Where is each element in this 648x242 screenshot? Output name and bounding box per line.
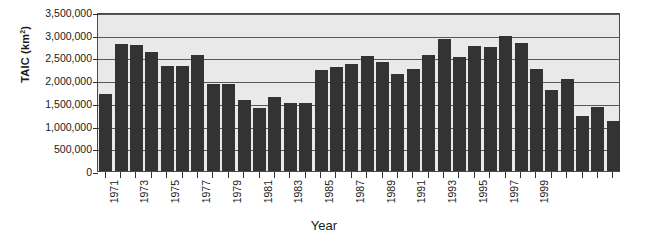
y-axis-tick-label: 2,500,000 (22, 53, 92, 63)
y-axis-tick-labels: 3,500,0003,000,0002,500,0002,000,0001,50… (22, 0, 92, 242)
bar (130, 45, 143, 171)
bar (253, 108, 266, 171)
bar (499, 36, 512, 171)
bar (422, 55, 435, 171)
bar (99, 94, 112, 171)
bar (438, 39, 451, 171)
bar (591, 107, 604, 172)
y-axis-tick-label: 2,000,000 (22, 76, 92, 86)
x-axis-tick-label: 1981 (263, 180, 274, 220)
bar (530, 69, 543, 171)
bar (468, 46, 481, 171)
x-axis-tick-label: 1987 (355, 180, 366, 220)
y-axis-tick-label: 500,000 (22, 144, 92, 154)
bar (161, 66, 174, 171)
x-axis-tick-label: 1977 (201, 180, 212, 220)
x-axis-tick-label: 1989 (386, 180, 397, 220)
x-axis-tick-label: 1985 (324, 180, 335, 220)
bar (407, 69, 420, 171)
bar (315, 70, 328, 171)
bar (222, 84, 235, 171)
x-axis-tick-label: 1993 (447, 180, 458, 220)
bar-series (98, 14, 619, 171)
bar-chart: TAIC (km2) 3,500,0003,000,0002,500,0002,… (0, 0, 648, 242)
bar (391, 74, 404, 171)
bar (515, 43, 528, 171)
bar (238, 100, 251, 171)
bar (361, 56, 374, 171)
bar (268, 97, 281, 171)
bar (191, 55, 204, 171)
plot-area (97, 13, 620, 172)
y-axis-tick-label: 3,500,000 (22, 8, 92, 18)
bar (576, 116, 589, 171)
x-axis-tick-label: 1995 (478, 180, 489, 220)
bar (453, 57, 466, 171)
bar (607, 121, 620, 171)
bar (330, 67, 343, 171)
x-axis-tick-label: 1973 (139, 180, 150, 220)
bar (376, 62, 389, 171)
x-axis-tick-label: 1971 (109, 180, 120, 220)
bar (207, 84, 220, 171)
x-axis-tick-label: 1997 (509, 180, 520, 220)
x-axis-title: Year (0, 218, 648, 233)
y-axis-tick-label: 1,000,000 (22, 122, 92, 132)
bar (176, 66, 189, 171)
x-axis-tick-label: 1983 (293, 180, 304, 220)
bar (115, 44, 128, 171)
bar (484, 47, 497, 171)
y-axis-tick-label: 1,500,000 (22, 99, 92, 109)
bar (145, 52, 158, 171)
x-axis-tick-label: 1999 (539, 180, 550, 220)
x-axis-tick-label: 1991 (416, 180, 427, 220)
bar (545, 90, 558, 171)
y-axis-tick-label: 3,000,000 (22, 31, 92, 41)
bar (284, 103, 297, 171)
x-axis-tick-label: 1975 (170, 180, 181, 220)
x-axis-tick-labels: 1971197319751977197919811983198519871989… (97, 178, 620, 220)
x-axis-tick-label: 1979 (232, 180, 243, 220)
bar (345, 64, 358, 171)
bar (299, 103, 312, 171)
bar (561, 79, 574, 171)
y-axis-tick-label: 0 (22, 167, 92, 177)
